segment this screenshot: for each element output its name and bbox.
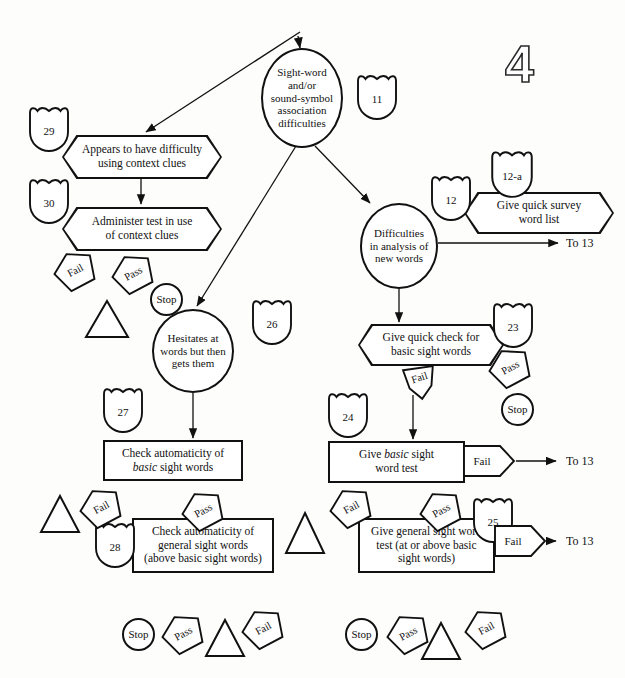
stop-node-4[interactable]: Stop bbox=[345, 618, 378, 651]
shield-badge-12[interactable]: 12 bbox=[428, 173, 474, 223]
triangle-icon bbox=[203, 617, 247, 659]
triangle-icon bbox=[38, 493, 82, 535]
triangle-icon bbox=[419, 620, 463, 662]
fail-connector-basic-test[interactable]: Fail bbox=[462, 444, 516, 478]
fail-connector-label: Fail bbox=[464, 444, 500, 478]
edge-circle-to-difficulties bbox=[315, 146, 370, 203]
fail-funnel-quick-check[interactable]: Fail bbox=[401, 363, 440, 403]
triangle-node-4[interactable] bbox=[283, 510, 327, 556]
stop-label: Stop bbox=[351, 628, 371, 641]
node-label: Give basic sight word test bbox=[357, 448, 436, 475]
hexagon-inner: Appears to have difficulty using context… bbox=[64, 137, 220, 177]
shield-number: 29 bbox=[26, 104, 72, 154]
to-13-label-basic-test: To 13 bbox=[566, 454, 594, 469]
hexagon-inner: Administer test in use of context clues bbox=[64, 209, 220, 249]
to-13-label-general-test: To 13 bbox=[566, 534, 594, 549]
to-13-label-survey: To 13 bbox=[566, 236, 594, 251]
shield-number: 24 bbox=[325, 390, 371, 440]
node-appears-to-have-difficulty[interactable]: Appears to have difficulty using context… bbox=[62, 135, 222, 179]
rect-text-italic: basic bbox=[133, 461, 157, 473]
node-label: Hesitates at words but then gets them bbox=[158, 332, 227, 371]
triangle-node-2[interactable] bbox=[38, 493, 82, 535]
node-label: Give quick check for basic sight words bbox=[381, 331, 482, 359]
rect-text-before: Check automaticity of bbox=[122, 447, 224, 459]
shield-badge-24[interactable]: 24 bbox=[325, 390, 371, 440]
node-label: Give quick survey word list bbox=[495, 199, 583, 227]
stop-label: Stop bbox=[507, 403, 527, 416]
shield-number: 12 bbox=[428, 173, 474, 223]
fail-connector-label: Fail bbox=[495, 524, 531, 558]
shield-badge-26[interactable]: 26 bbox=[249, 297, 295, 347]
node-label: Appears to have difficulty using context… bbox=[80, 143, 204, 171]
node-label: Check automaticity of basic sight words bbox=[120, 447, 226, 474]
stop-node-3[interactable]: Stop bbox=[122, 618, 155, 651]
triangle-node-5[interactable] bbox=[419, 620, 463, 662]
stop-node-2[interactable]: Stop bbox=[501, 393, 534, 426]
node-difficulties-analysis[interactable]: Difficulties in analysis of new words bbox=[360, 203, 438, 289]
node-check-automaticity-basic[interactable]: Check automaticity of basic sight words bbox=[103, 440, 243, 481]
shield-badge-11[interactable]: 11 bbox=[354, 72, 400, 122]
shield-badge-30[interactable]: 30 bbox=[26, 176, 72, 226]
shield-number: 12-a bbox=[488, 148, 536, 200]
triangle-icon bbox=[283, 510, 327, 556]
shield-number: 30 bbox=[26, 176, 72, 226]
triangle-node-3[interactable] bbox=[203, 617, 247, 659]
node-label: Sight-word and/or sound-symbol associati… bbox=[269, 66, 335, 131]
rect-text-before: Give bbox=[359, 448, 384, 460]
shield-number: 11 bbox=[354, 72, 400, 122]
flowchart-page: 4 Sight-word and/or sound-symbol associa… bbox=[0, 0, 625, 678]
stop-label: Stop bbox=[128, 628, 148, 641]
node-label: Difficulties in analysis of new words bbox=[368, 227, 431, 266]
triangle-icon bbox=[83, 298, 131, 340]
fail-connector-general-test[interactable]: Fail bbox=[493, 524, 547, 558]
page-number: 4 bbox=[505, 38, 534, 90]
triangle-node-1[interactable] bbox=[83, 298, 131, 340]
shield-badge-12a[interactable]: 12-a bbox=[488, 148, 536, 200]
node-label: Administer test in use of context clues bbox=[90, 215, 195, 243]
stop-label: Stop bbox=[156, 293, 176, 306]
node-give-quick-survey-word-list[interactable]: Give quick survey word list bbox=[464, 192, 614, 234]
shield-badge-29[interactable]: 29 bbox=[26, 104, 72, 154]
rect-text-after: sight words bbox=[157, 461, 213, 473]
stop-node-1[interactable]: Stop bbox=[150, 283, 183, 316]
node-hesitates-at-words[interactable]: Hesitates at words but then gets them bbox=[152, 309, 234, 393]
shield-badge-27[interactable]: 27 bbox=[100, 385, 146, 435]
shield-number: 26 bbox=[249, 297, 295, 347]
rect-text-italic: basic bbox=[384, 448, 408, 460]
node-sight-word-difficulties[interactable]: Sight-word and/or sound-symbol associati… bbox=[261, 48, 343, 148]
hexagon-inner: Give quick check for basic sight words bbox=[360, 326, 502, 364]
node-give-basic-sight-word-test[interactable]: Give basic sight word test bbox=[328, 441, 465, 483]
shield-number: 27 bbox=[100, 385, 146, 435]
